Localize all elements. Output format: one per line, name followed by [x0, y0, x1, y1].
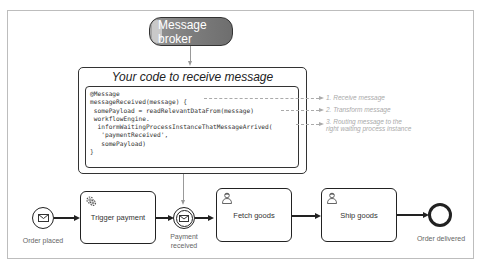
- annotation-routing-line1: 3. Routing message to the: [326, 118, 411, 125]
- annotation-routing-message: 3. Routing message to the right waiting …: [326, 118, 411, 132]
- task-ship-goods[interactable]: Ship goods: [321, 188, 397, 242]
- annotation-arrowhead: [319, 96, 324, 100]
- task-label: Ship goods: [340, 211, 378, 220]
- task-fetch-goods[interactable]: Fetch goods: [216, 188, 292, 242]
- annotation-receive-message: 1. Receive message: [326, 94, 385, 101]
- sequence-flow: [195, 217, 208, 219]
- code-block-title: Your code to receive message: [79, 70, 306, 84]
- code-block: Your code to receive message @Messagemes…: [78, 67, 307, 174]
- envelope-icon: [38, 214, 49, 222]
- intermediate-event-label-line1: Payment: [159, 232, 209, 241]
- user-icon: [221, 192, 233, 204]
- annotation-connector-2: [281, 110, 319, 111]
- intermediate-event-label-line2: received: [159, 241, 209, 250]
- annotation-connector-1: [204, 98, 319, 99]
- gear-icon: [85, 195, 97, 207]
- intermediate-event-payment-received[interactable]: [173, 207, 195, 229]
- annotation-arrowhead: [319, 108, 324, 112]
- sequence-flow: [397, 214, 423, 216]
- code-line: workflowEngine.: [90, 115, 294, 123]
- event-inner-ring: [176, 210, 193, 227]
- sequence-flow: [54, 217, 74, 219]
- connector-arrowhead: [188, 61, 192, 66]
- envelope-icon: [179, 215, 189, 222]
- message-broker-label: Message broker: [158, 18, 232, 46]
- code-to-event-connector: [183, 174, 184, 202]
- code-line: informWaitingProcessInstanceThatMessageA…: [90, 123, 294, 131]
- end-event-order-delivered[interactable]: [428, 203, 452, 227]
- code-line: messageReceived(message) {: [90, 98, 294, 106]
- sequence-flow: [156, 217, 168, 219]
- annotation-arrowhead: [319, 122, 324, 126]
- user-icon: [326, 192, 338, 204]
- intermediate-event-label: Payment received: [159, 232, 209, 250]
- start-event-label: Order placed: [13, 236, 73, 245]
- connector-arrowhead: [181, 200, 185, 205]
- annotation-routing-line2: right waiting process instance: [326, 125, 411, 132]
- code-line: somePayload = readRelevantDataFrom(messa…: [90, 107, 294, 115]
- code-line: somePayload): [90, 140, 294, 148]
- code-line: 'paymentReceived',: [90, 131, 294, 139]
- flow-arrowhead: [208, 215, 214, 221]
- annotation-connector-3: [296, 124, 319, 125]
- message-broker: Message broker: [149, 17, 233, 46]
- start-event-order-placed[interactable]: [32, 207, 54, 229]
- task-label: Trigger payment: [91, 213, 145, 222]
- end-event-label: Order delivered: [408, 234, 474, 243]
- task-trigger-payment[interactable]: Trigger payment: [80, 191, 156, 244]
- annotation-transform-message: 2. Transform message: [326, 106, 391, 113]
- sequence-flow: [292, 215, 315, 217]
- code-line: }: [90, 148, 294, 156]
- task-label: Fetch goods: [233, 211, 274, 220]
